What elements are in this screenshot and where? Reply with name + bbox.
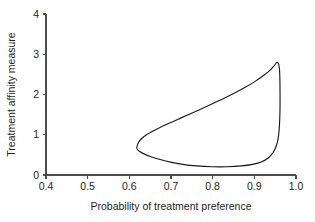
y-axis-title: Treatment affinity measure [5, 32, 17, 156]
x-tick-label: 1.0 [289, 180, 304, 192]
x-tick-label: 0.4 [39, 180, 54, 192]
x-tick-label: 0.8 [205, 180, 220, 192]
plot-canvas: 01234 0.40.50.60.70.80.91.0 Probability … [0, 0, 315, 222]
x-axis-title: Probability of treatment preference [90, 200, 251, 212]
chart-figure: 01234 0.40.50.60.70.80.91.0 Probability … [0, 0, 315, 222]
x-tick-label: 0.7 [164, 180, 179, 192]
y-tick-label: 2 [33, 88, 39, 100]
x-tick-label: 0.6 [122, 180, 137, 192]
x-tick-label: 0.9 [247, 180, 262, 192]
y-tick-label: 4 [33, 8, 39, 20]
y-tick-label: 3 [33, 48, 39, 60]
y-tick-label: 1 [33, 128, 39, 140]
x-tick-label: 0.5 [80, 180, 95, 192]
